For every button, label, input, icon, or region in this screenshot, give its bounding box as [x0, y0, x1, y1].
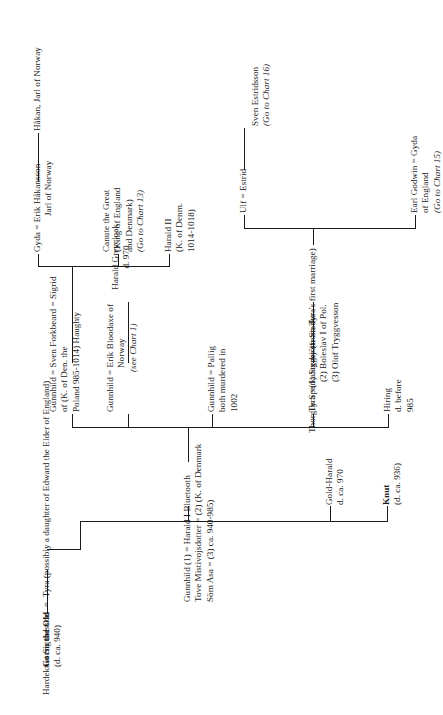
node-sven-estridsson: Sven Estridsson (Go to Chart 16): [250, 64, 273, 126]
hiring-note: d. before: [393, 379, 404, 412]
connector-to-gunnhild-erik: [128, 414, 129, 428]
bluetooth-line1: Gunnhild (1) = Harald I Bluetooth: [182, 444, 193, 602]
ulf-estrid-line1: Ulf = Estrid: [238, 169, 249, 213]
connector-to-gunnhild-pallig: [212, 414, 213, 428]
gunnhild-pallig-line2: both murdered in: [217, 346, 228, 412]
node-sven-forkbeard: Gunnhild = Sven Forkbeard = Sigrid of (K…: [48, 277, 82, 412]
node-gunnhild-pallig: Gunnhild = Pallig both murdered in 1002: [206, 346, 240, 412]
node-harald-i-bluetooth: Gunnhild (1) = Harald I Bluetooth Tove M…: [182, 444, 216, 602]
tyra-line2: (2) Boleslav I of Pol.: [318, 303, 329, 412]
node-earl-godwin: Earl Godwin = Gyda of England (Go to Cha…: [409, 136, 443, 213]
canute-name: Canute the Great: [101, 188, 112, 252]
gyda-erik-line2: Jarl of Norway: [43, 161, 54, 252]
forkbeard-line1: Gunnhild = Sven Forkbeard = Sigrid: [48, 277, 59, 412]
node-hakan-jarl: Håkan, Jarl of Norway: [32, 47, 43, 131]
gunnhild-pallig-line1: Gunnhild = Pallig: [206, 346, 217, 412]
harald-ii-title: (K. of Denm.: [174, 203, 185, 252]
earl-godwin-line1: Earl Godwin = Gyda: [409, 136, 420, 213]
connector-thorgils-children-spine: [244, 228, 415, 229]
canute-title1: (King of England: [112, 188, 123, 252]
connector-to-earl-godwin: [415, 215, 416, 229]
hiring-name: Hiring: [382, 379, 393, 412]
gunnhild-erik-line1: Gunnhild = Erik Bloodaxe of: [105, 304, 116, 412]
gorm-dates: (d. ca. 940): [52, 381, 63, 667]
connector-gorm-children-bus: [80, 522, 81, 550]
thorgils-name: Thorgils Sparkalagger (from Tyra's first…: [307, 248, 318, 433]
node-knut: Knut (d. ca. 936): [381, 463, 404, 505]
bluetooth-line2: Tove Mistivojsdotter = (2) (K. of Denmar…: [193, 444, 204, 602]
node-gold-harald: Gold-Harald d. ca. 970: [324, 458, 347, 505]
knut-dates: (d. ca. 936): [392, 463, 403, 505]
gunnhild-erik-line2: Norway: [116, 304, 127, 412]
forkbeard-line2: of (K. of Den. the: [59, 277, 70, 412]
canute-title2: and Denmark): [124, 188, 135, 252]
node-gorm-the-old: Gorm the Old = Tyra (possibly a daughter…: [41, 381, 64, 667]
harald-ii-reign: 1014-1018): [186, 203, 197, 252]
connector-gorm-children-spine: [80, 521, 387, 522]
node-gunnhild-erik-bloodaxe: Gunnhild = Erik Bloodaxe of Norway (see …: [105, 304, 139, 412]
connector-thorgils-drop: [313, 229, 314, 245]
bluetooth-line3: Söm Asa = (3) ca. 940-985): [205, 444, 216, 602]
gorm-spouse: Tyra (possibly a daughter of Edward the …: [41, 381, 51, 598]
gorm-equals: =: [41, 602, 51, 607]
node-harald-ii: Harald II (K. of Denm. 1014-1018): [163, 203, 197, 252]
knut-name: Knut: [381, 463, 392, 505]
gunnhild-pallig-line3: 1002: [229, 346, 240, 412]
forkbeard-line3: Poland 985-1014) Haughty: [71, 277, 82, 412]
sven-estridsson-name: Sven Estridsson: [250, 64, 261, 126]
sven-estridsson-chartref[interactable]: (Go to Chart 16): [261, 64, 272, 126]
hakan-name: Håkan, Jarl of Norway: [32, 47, 43, 131]
tyra-line3: (3) Olof Tryggvesson: [330, 303, 341, 412]
node-ulf-estrid: Ulf = Estrid: [238, 169, 249, 213]
gyda-erik-line1: Gyda = Erik Håkansson: [32, 161, 43, 252]
node-canute-the-great: Canute the Great (King of England and De…: [101, 188, 147, 252]
connector-to-sven-forkbeard: [72, 414, 73, 428]
connector-to-gyda-erik: [38, 254, 39, 267]
hiring-year: 985: [405, 379, 416, 412]
node-thorgils-sparkalagger: Thorgils Sparkalagger (from Tyra's first…: [307, 248, 318, 433]
node-hiring: Hiring d. before 985: [382, 379, 416, 412]
node-gyda-erik-hakansson: Gyda = Erik Håkansson Jarl of Norway: [32, 161, 55, 252]
harald-ii-name: Harald II: [163, 203, 174, 252]
earl-godwin-line2: of England: [420, 136, 431, 213]
gunnhild-erik-chartref[interactable]: (see Chart 1): [128, 304, 139, 412]
gold-harald-dates: d. ca. 970: [335, 458, 346, 505]
connector-to-gold-harald: [330, 506, 331, 522]
canute-chartref[interactable]: (Go to Chart 13): [135, 188, 146, 252]
connector-to-knut: [387, 506, 388, 522]
connector-to-sven-estridsson: [244, 128, 245, 170]
connector-bluetooth-children-spine: [72, 427, 388, 428]
connector-to-harald-ii: [169, 254, 170, 267]
connector-to-hiring: [388, 414, 389, 428]
earl-godwin-chartref[interactable]: (Go to Chart 15): [432, 136, 443, 213]
gold-harald-name: Gold-Harald: [324, 458, 335, 505]
gorm-name: Gorm the Old: [41, 612, 51, 667]
connector-forkbeard-children-spine: [38, 266, 169, 267]
connector-to-ulf: [244, 215, 245, 229]
